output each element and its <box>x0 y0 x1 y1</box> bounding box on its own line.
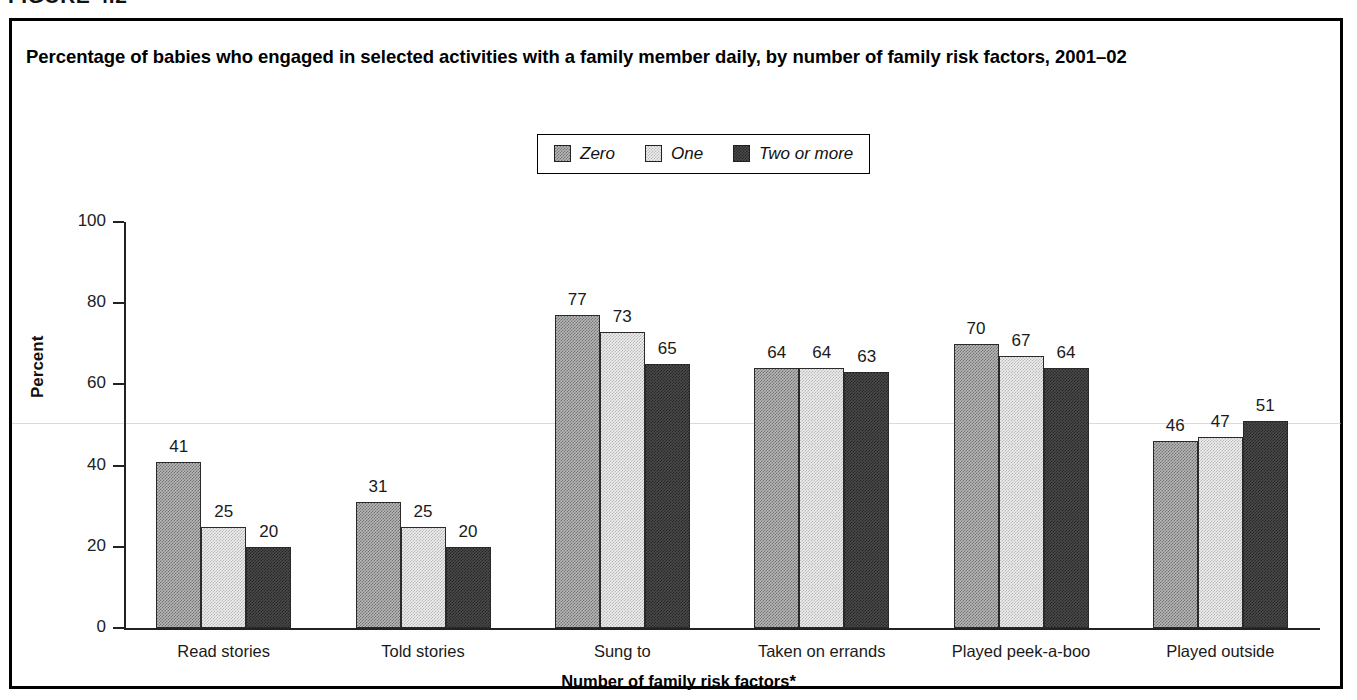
bar-value-label: 67 <box>999 331 1044 351</box>
legend-label-two-or-more: Two or more <box>759 144 853 164</box>
bar-value-label: 46 <box>1153 416 1198 436</box>
y-axis-tick <box>113 546 124 548</box>
bar <box>156 462 201 628</box>
y-axis-tick-label: 0 <box>60 617 106 637</box>
legend-swatch-icon-zero <box>554 145 571 162</box>
bar <box>446 547 491 628</box>
y-axis-tick <box>113 221 124 223</box>
bar <box>201 527 246 629</box>
bar <box>645 364 690 628</box>
legend-label-one: One <box>671 144 703 164</box>
x-axis-group-label: Played peek-a-boo <box>921 642 1120 661</box>
chart-legend: Zero One Two or more <box>537 134 870 174</box>
x-axis-group-label: Read stories <box>124 642 323 661</box>
y-axis-tick-label: 80 <box>60 292 106 312</box>
plot-area: 020406080100 412520Read stories312520Tol… <box>124 222 1320 628</box>
bar <box>844 372 889 628</box>
bar <box>1198 437 1243 628</box>
x-axis-group-label: Told stories <box>323 642 522 661</box>
y-axis-tick <box>113 383 124 385</box>
x-axis-line <box>124 628 1320 630</box>
legend-swatch-icon-one <box>645 145 662 162</box>
y-axis-line <box>124 222 126 628</box>
bar-value-label: 64 <box>754 343 799 363</box>
y-axis-tick-label: 100 <box>60 211 106 231</box>
bar-value-label: 31 <box>356 477 401 497</box>
bar-value-label: 51 <box>1243 396 1288 416</box>
y-axis-tick <box>113 302 124 304</box>
bar <box>401 527 446 629</box>
legend-label-zero: Zero <box>580 144 615 164</box>
bar <box>754 368 799 628</box>
bar-value-label: 63 <box>844 347 889 367</box>
bar-value-label: 77 <box>555 290 600 310</box>
y-axis-tick-label: 20 <box>60 536 106 556</box>
bar-value-label: 65 <box>645 339 690 359</box>
y-axis-tick-label: 60 <box>60 373 106 393</box>
y-axis-tick <box>113 465 124 467</box>
bar <box>555 315 600 628</box>
x-axis-group-label: Sung to <box>523 642 722 661</box>
x-axis-group-label: Played outside <box>1121 642 1320 661</box>
bar <box>356 502 401 628</box>
bar-value-label: 20 <box>246 522 291 542</box>
bar <box>246 547 291 628</box>
bar-value-label: 25 <box>201 502 246 522</box>
bar-value-label: 20 <box>446 522 491 542</box>
bar-value-label: 25 <box>401 502 446 522</box>
bar <box>1044 368 1089 628</box>
chart-title: Percentage of babies who engaged in sele… <box>26 46 1316 68</box>
bar <box>1243 421 1288 628</box>
bar-value-label: 64 <box>1044 343 1089 363</box>
legend-item-two-or-more: Two or more <box>733 144 853 164</box>
x-axis-group-label: Taken on errands <box>722 642 921 661</box>
y-axis-title: Percent <box>28 336 48 398</box>
y-axis-tick-label: 40 <box>60 455 106 475</box>
bar <box>954 344 999 628</box>
bar-value-label: 64 <box>799 343 844 363</box>
bar-value-label: 70 <box>954 319 999 339</box>
bar-value-label: 73 <box>600 307 645 327</box>
bar-value-label: 41 <box>156 437 201 457</box>
legend-item-one: One <box>645 144 703 164</box>
bar <box>600 332 645 628</box>
legend-item-zero: Zero <box>554 144 615 164</box>
y-axis-tick <box>113 627 124 629</box>
x-axis-title: Number of family risk factors* <box>0 672 1357 691</box>
legend-swatch-icon-two-or-more <box>733 145 750 162</box>
bar <box>999 356 1044 628</box>
bar <box>1153 441 1198 628</box>
bar <box>799 368 844 628</box>
figure-label: FIGURE 4.2 <box>8 0 127 8</box>
bar-value-label: 47 <box>1198 412 1243 432</box>
